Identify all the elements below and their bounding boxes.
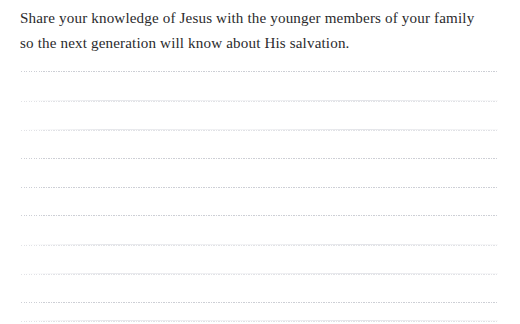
writing-line[interactable] xyxy=(21,273,498,275)
writing-line[interactable] xyxy=(21,320,498,322)
writing-line-ink xyxy=(21,274,498,275)
writing-line-ink xyxy=(21,130,498,131)
writing-line[interactable] xyxy=(21,187,498,189)
writing-line[interactable] xyxy=(21,215,498,217)
writing-line[interactable] xyxy=(21,129,498,131)
journal-page: Share your knowledge of Jesus with the y… xyxy=(0,0,520,324)
writing-line[interactable] xyxy=(21,158,498,160)
writing-line[interactable] xyxy=(21,244,498,246)
writing-line-ink xyxy=(21,71,498,72)
writing-line-ink xyxy=(21,187,498,188)
writing-line-ink xyxy=(21,302,498,303)
writing-line-ink xyxy=(21,321,498,322)
writing-lines-area[interactable] xyxy=(0,0,520,324)
writing-line[interactable] xyxy=(21,100,498,102)
writing-line-ink xyxy=(21,158,498,159)
writing-line-ink xyxy=(21,245,498,246)
writing-line-ink xyxy=(21,101,498,102)
writing-line[interactable] xyxy=(21,302,498,304)
writing-line-ink xyxy=(21,215,498,216)
writing-line[interactable] xyxy=(21,71,498,73)
